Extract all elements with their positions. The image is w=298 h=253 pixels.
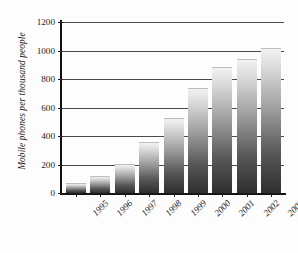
x-tick-label-1997: 1997 bbox=[139, 198, 159, 218]
x-tick-mark bbox=[247, 193, 248, 197]
y-tick-label: 200 bbox=[41, 160, 55, 170]
bar-slot bbox=[237, 22, 257, 193]
bar-slot bbox=[139, 22, 159, 193]
x-tick-mark bbox=[76, 193, 77, 197]
x-tick-mark bbox=[174, 193, 175, 197]
x-tick-label-1996: 1996 bbox=[114, 198, 134, 218]
x-tick-label-1999: 1999 bbox=[188, 198, 208, 218]
bar-slot bbox=[212, 22, 232, 193]
bar-1995[interactable] bbox=[66, 183, 86, 193]
bar-2002[interactable] bbox=[237, 59, 257, 193]
y-tick-label: 800 bbox=[41, 74, 55, 84]
bar-1998[interactable] bbox=[139, 142, 159, 193]
x-tick-label-2000: 2000 bbox=[212, 198, 232, 218]
bar-series bbox=[62, 22, 284, 193]
y-tick-mark bbox=[58, 193, 63, 194]
y-tick-label: 600 bbox=[41, 103, 55, 113]
x-tick-label-1998: 1998 bbox=[163, 198, 183, 218]
bar-2001[interactable] bbox=[212, 67, 232, 193]
x-tick-label-2003: 2003 bbox=[285, 198, 298, 218]
x-tick-mark bbox=[271, 193, 272, 197]
bar-slot bbox=[90, 22, 110, 193]
x-tick-mark bbox=[222, 193, 223, 197]
bar-2003[interactable] bbox=[261, 48, 281, 193]
x-tick-label-2002: 2002 bbox=[261, 198, 281, 218]
bar-1996[interactable] bbox=[90, 176, 110, 193]
bar-slot bbox=[66, 22, 86, 193]
y-tick-label: 400 bbox=[41, 131, 55, 141]
bar-2000[interactable] bbox=[188, 88, 208, 193]
x-tick-mark bbox=[100, 193, 101, 197]
bar-slot bbox=[115, 22, 135, 193]
bar-slot bbox=[261, 22, 281, 193]
gridline bbox=[62, 193, 284, 194]
chart-figure: Mobile phones per thousand people 020040… bbox=[0, 0, 298, 253]
x-tick-label-1995: 1995 bbox=[90, 198, 110, 218]
y-tick-label: 1000 bbox=[37, 46, 55, 56]
plot-area: 020040060080010001200 bbox=[62, 22, 284, 193]
bar-slot bbox=[188, 22, 208, 193]
y-axis-title: Mobile phones per thousand people bbox=[17, 16, 27, 186]
x-axis-labels: 199519961997199819992000200120022003 bbox=[62, 198, 284, 246]
x-tick-mark bbox=[149, 193, 150, 197]
x-tick-mark bbox=[198, 193, 199, 197]
bar-1997[interactable] bbox=[115, 164, 135, 194]
x-tick-mark bbox=[125, 193, 126, 197]
bar-1999[interactable] bbox=[164, 118, 184, 193]
y-tick-label: 1200 bbox=[37, 17, 55, 27]
x-tick-label-2001: 2001 bbox=[236, 198, 256, 218]
bar-slot bbox=[164, 22, 184, 193]
y-tick-label: 0 bbox=[50, 188, 55, 198]
